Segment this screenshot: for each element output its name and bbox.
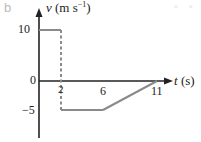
segment-ramp-up	[103, 81, 157, 110]
x-tick-6: 6	[100, 84, 106, 99]
x-axis-arrow-icon	[164, 78, 173, 85]
velocity-time-graph	[0, 0, 201, 142]
y-tick-10: 10	[18, 22, 30, 37]
y-tick-0: 0	[30, 73, 36, 88]
y-axis-arrow-icon	[36, 8, 43, 17]
x-axis-variable: t	[174, 73, 178, 88]
x-axis-label: t (s)	[174, 73, 195, 89]
x-axis-unit: (s)	[181, 73, 195, 88]
x-tick-11: 11	[151, 84, 163, 99]
y-tick-neg5: −5	[22, 103, 35, 118]
x-tick-2: 2	[58, 83, 64, 95]
